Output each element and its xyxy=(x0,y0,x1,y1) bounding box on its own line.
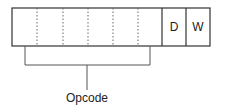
w-bit-label: W xyxy=(186,20,210,34)
opcode-label: Opcode xyxy=(57,91,117,105)
opcode-bracket xyxy=(25,46,150,90)
d-bit-label: D xyxy=(162,20,186,34)
